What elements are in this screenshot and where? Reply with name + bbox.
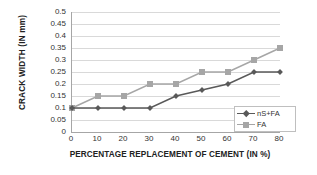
legend-label: nS+FA [255, 110, 280, 118]
y-tick-label: 0.3 [30, 56, 66, 64]
data-point-marker [121, 105, 127, 111]
legend-marker-icon [237, 109, 255, 119]
x-tick-label: 10 [85, 135, 109, 143]
chart-legend: nS+FAFA [234, 106, 296, 132]
data-point-marker [95, 93, 101, 99]
y-axis-title: CRACK WIDTH (IN mm) [18, 0, 27, 133]
data-point-marker [225, 69, 231, 75]
data-point-marker [199, 69, 205, 75]
data-point-marker [199, 87, 205, 93]
x-tick-label: 0 [59, 135, 83, 143]
y-axis-tick-labels: 00.050.10.150.20.250.30.350.40.450.5 [30, 0, 66, 175]
legend-item-ns-fa[interactable]: nS+FA [237, 108, 293, 119]
x-tick-label: 40 [163, 135, 187, 143]
x-tick-label: 70 [241, 135, 265, 143]
y-tick-label: 0.15 [30, 92, 66, 100]
y-tick-label: 0.45 [30, 20, 66, 28]
x-axis-tick-labels: 01020304050607080 [71, 135, 279, 149]
data-point-marker [225, 81, 231, 87]
legend-label: FA [255, 121, 266, 129]
data-point-marker [95, 105, 101, 111]
y-tick-label: 0.5 [30, 8, 66, 16]
y-tick-label: 0.4 [30, 32, 66, 40]
data-point-marker [277, 45, 283, 51]
x-axis-title: PERCENTAGE REPLACEMENT OF CEMENT (IN %) [40, 150, 300, 159]
y-tick-label: 0.25 [30, 68, 66, 76]
data-point-marker [251, 57, 257, 63]
y-tick-label: 0.1 [30, 104, 66, 112]
y-tick-label: 0.05 [30, 116, 66, 124]
data-point-marker [147, 105, 153, 111]
x-tick-label: 20 [111, 135, 135, 143]
y-tick-label: 0.2 [30, 80, 66, 88]
series-ns-fa [69, 69, 283, 111]
data-point-marker [173, 93, 179, 99]
legend-item-fa[interactable]: FA [237, 119, 293, 130]
legend-marker-icon [237, 120, 255, 130]
data-point-marker [277, 69, 283, 75]
data-point-marker [147, 81, 153, 87]
series-line [72, 48, 280, 108]
x-tick-label: 60 [215, 135, 239, 143]
data-point-marker [173, 81, 179, 87]
x-tick-label: 50 [189, 135, 213, 143]
y-tick-label: 0.35 [30, 44, 66, 52]
crack-width-line-chart: CRACK WIDTH (IN mm) 00.050.10.150.20.250… [0, 0, 317, 175]
data-point-marker [121, 93, 127, 99]
series-line [72, 72, 280, 108]
series-fa [69, 45, 283, 111]
data-point-marker [251, 69, 257, 75]
x-tick-label: 80 [267, 135, 291, 143]
x-tick-label: 30 [137, 135, 161, 143]
